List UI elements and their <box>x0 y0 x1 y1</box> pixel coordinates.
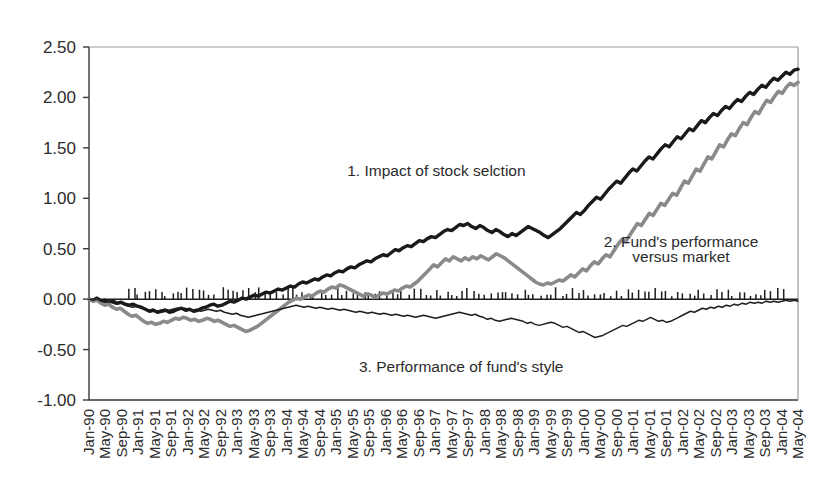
y-axis-tick-label: 1.50 <box>43 139 76 158</box>
x-axis-label-group: Jan-90May-90Sep-90Jan-91May-91Sep-91Jan-… <box>80 409 806 459</box>
y-axis-tick-label: 1.00 <box>43 189 76 208</box>
x-axis-tick-label: Sep-93 <box>261 409 278 457</box>
x-axis-tick-label: May-95 <box>344 409 361 459</box>
y-axis-tick-label: -1.00 <box>37 391 76 410</box>
y-axis-tick-label: 0.00 <box>43 290 76 309</box>
axis-frame <box>89 47 798 400</box>
x-axis-tick-label: Sep-00 <box>608 409 625 457</box>
x-axis-tick-label: Jan-00 <box>575 409 592 455</box>
annot-2-line2: versus market <box>632 248 730 265</box>
x-axis-tick-label: Jan-96 <box>377 409 394 455</box>
x-axis-tick-label: May-93 <box>245 409 262 459</box>
x-axis-tick-label: Jan-91 <box>129 409 146 455</box>
x-axis-tick-label: May-90 <box>96 409 113 459</box>
x-axis-tick-label: Jan-97 <box>426 409 443 455</box>
x-axis-tick-label: Sep-97 <box>459 409 476 457</box>
y-axis-label-group: 2.502.001.501.000.500.00-0.50-1.00 <box>37 38 76 410</box>
annot-2-line1: 2. Fund's performance <box>604 233 759 250</box>
series-line-1 <box>89 69 798 312</box>
x-axis-tick-label: Jan-01 <box>624 409 641 455</box>
x-axis-tick-label: May-99 <box>542 409 559 459</box>
x-axis-tick-label: May-94 <box>294 409 311 459</box>
annotation-group: 1. Impact of stock selction2. Fund's per… <box>347 162 758 375</box>
annot-1: 1. Impact of stock selction <box>347 162 525 179</box>
x-axis-tick-label: Sep-95 <box>360 409 377 457</box>
y-axis-tick-group <box>83 47 89 400</box>
annot-3: 3. Performance of fund's style <box>359 358 564 375</box>
x-axis-tick-label: Sep-94 <box>311 409 328 457</box>
x-axis-tick-label: May-00 <box>591 409 608 459</box>
y-axis-tick-label: 0.50 <box>43 240 76 259</box>
x-axis-tick-label: May-91 <box>146 409 163 459</box>
x-axis-tick-label: May-97 <box>443 409 460 459</box>
x-axis-tick-label: Sep-02 <box>707 409 724 457</box>
x-axis-tick-label: Jan-94 <box>278 409 295 455</box>
y-axis-tick-label: 2.00 <box>43 88 76 107</box>
x-axis-tick-label: Jan-04 <box>773 409 790 455</box>
x-axis-tick-label: May-96 <box>393 409 410 459</box>
x-axis-tick-label: May-04 <box>789 409 806 459</box>
x-axis-tick-label: Sep-01 <box>657 409 674 457</box>
y-axis-tick-label: 2.50 <box>43 38 76 57</box>
chart-figure: 2.502.001.501.000.500.00-0.50-1.00 Jan-9… <box>0 0 840 481</box>
zero-baseline-ticks <box>89 287 798 299</box>
x-axis-tick-label: May-98 <box>492 409 509 459</box>
x-axis-tick-label: May-02 <box>690 409 707 459</box>
x-axis-tick-label: Sep-90 <box>113 409 130 457</box>
series-line-2 <box>89 82 798 331</box>
x-axis-tick-label: Sep-99 <box>558 409 575 457</box>
x-axis-tick-label: Sep-96 <box>410 409 427 457</box>
x-axis-tick-label: Jan-98 <box>476 409 493 455</box>
x-axis-tick-label: Sep-91 <box>162 409 179 457</box>
x-axis-tick-label: Sep-98 <box>509 409 526 457</box>
x-axis-tick-label: Jan-02 <box>674 409 691 455</box>
x-axis-tick-label: May-01 <box>641 409 658 459</box>
x-axis-tick-label: May-03 <box>740 409 757 459</box>
x-axis-tick-label: Jan-93 <box>228 409 245 455</box>
y-axis-tick-label: -0.50 <box>37 341 76 360</box>
data-series-group <box>89 69 798 337</box>
chart-container: 2.502.001.501.000.500.00-0.50-1.00 Jan-9… <box>0 0 840 481</box>
x-axis-tick-label: Sep-92 <box>212 409 229 457</box>
x-axis-tick-label: Jan-90 <box>80 409 97 455</box>
x-axis-tick-label: Jan-92 <box>179 409 196 455</box>
plot-frame <box>89 47 798 400</box>
x-axis-tick-label: Jan-95 <box>327 409 344 455</box>
x-axis-tick-label: May-92 <box>195 409 212 459</box>
x-axis-tick-label: Sep-03 <box>756 409 773 457</box>
x-axis-tick-label: Jan-99 <box>525 409 542 455</box>
x-axis-tick-label: Jan-03 <box>723 409 740 455</box>
